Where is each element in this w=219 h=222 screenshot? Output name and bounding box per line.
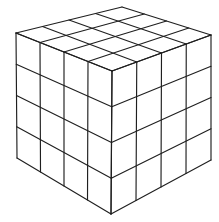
top-face-gridline <box>96 14 187 45</box>
cube-wireframe-svg <box>0 0 219 222</box>
top-face-gridline <box>88 28 189 62</box>
top-face-gridline <box>64 21 167 52</box>
left-face-gridline <box>88 62 89 201</box>
cube-figure <box>0 0 219 222</box>
